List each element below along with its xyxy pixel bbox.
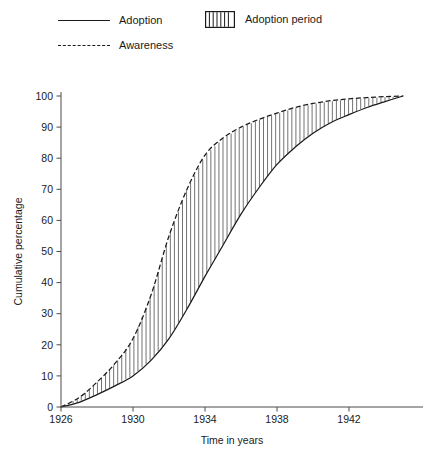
legend-label-adoption: Adoption — [119, 14, 162, 27]
vertical-hatch-swatch-icon — [205, 11, 235, 28]
legend-label-awareness: Awareness — [119, 39, 173, 52]
y-axis: 0102030405060708090100 — [35, 90, 61, 413]
series-awareness-line — [61, 96, 403, 407]
solid-line-swatch-icon — [58, 13, 110, 27]
y-axis-title: Cumulative percentage — [12, 197, 24, 305]
y-tick-label: 100 — [35, 90, 53, 102]
series-adoption-line — [61, 96, 403, 407]
x-axis: 19261930193419381942 — [49, 407, 423, 425]
figure: Adoption Awareness — [0, 0, 426, 462]
y-tick-label: 40 — [41, 276, 53, 288]
legend-entry-adoption: Adoption — [58, 13, 162, 27]
chart-legend: Adoption Awareness — [0, 0, 426, 78]
legend-label-adoption-period: Adoption period — [245, 13, 322, 26]
y-tick-label: 90 — [41, 121, 53, 133]
x-tick-label: 1938 — [265, 413, 289, 425]
line-chart: 0102030405060708090100 19261930193419381… — [0, 78, 426, 462]
y-tick-label: 80 — [41, 152, 53, 164]
plot-area: 0102030405060708090100 19261930193419381… — [0, 78, 426, 462]
y-tick-label: 30 — [41, 307, 53, 319]
y-tick-label: 0 — [47, 401, 53, 413]
x-axis-title: Time in years — [201, 434, 264, 446]
x-tick-label: 1942 — [337, 413, 361, 425]
legend-entry-awareness: Awareness — [58, 38, 173, 52]
y-tick-label: 70 — [41, 183, 53, 195]
legend-entry-adoption-period: Adoption period — [205, 11, 322, 28]
adoption-period-hatching — [69, 97, 397, 405]
y-tick-label: 10 — [41, 370, 53, 382]
x-tick-label: 1930 — [121, 413, 145, 425]
y-tick-label: 60 — [41, 214, 53, 226]
x-tick-label: 1934 — [193, 413, 217, 425]
y-tick-label: 20 — [41, 339, 53, 351]
x-tick-label: 1926 — [49, 413, 73, 425]
dashed-line-swatch-icon — [58, 38, 110, 52]
y-tick-label: 50 — [41, 245, 53, 257]
